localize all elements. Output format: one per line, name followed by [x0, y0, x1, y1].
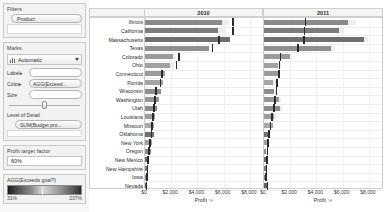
vertical-gridline: [290, 18, 291, 188]
label-field-box[interactable]: [29, 68, 82, 77]
row-label[interactable]: Oregon: [126, 147, 143, 155]
bar-mark[interactable]: [145, 63, 170, 68]
reference-line-marker: [161, 70, 162, 78]
axis-tick-label: $0: [260, 189, 266, 195]
gridline: [145, 181, 263, 182]
reference-line-marker: [305, 18, 306, 26]
bar-mark[interactable]: [264, 71, 278, 76]
vertical-gridline: [343, 18, 344, 188]
reference-line-marker: [265, 173, 266, 181]
sort-ascending-icon[interactable]: ↑≡: [207, 198, 213, 203]
reference-line-marker: [155, 87, 156, 95]
x-axis-2011[interactable]: $0$2,000$4,000$6,000$8,000: [263, 189, 383, 197]
axis-tick-label: $8,000: [241, 189, 256, 195]
bar-mark[interactable]: [264, 89, 274, 94]
size-field-box[interactable]: [29, 90, 82, 99]
parameter-input[interactable]: 60%: [7, 156, 82, 166]
color-legend-midpoint-marker: [42, 187, 43, 195]
gridline: [264, 87, 382, 88]
bar-mark[interactable]: [145, 132, 154, 137]
row-label[interactable]: Illinois: [129, 18, 143, 26]
bar-mark[interactable]: [145, 54, 173, 59]
row-label[interactable]: New Hampshire: [106, 165, 143, 173]
bar-mark[interactable]: [264, 149, 266, 154]
bar-mark[interactable]: [264, 28, 339, 33]
size-slider[interactable]: [9, 101, 80, 109]
color-card-icon[interactable]: Color▸: [7, 81, 29, 87]
bar-mark[interactable]: [145, 114, 155, 119]
row-label[interactable]: Massachusetts: [108, 36, 143, 44]
gridline: [145, 121, 263, 122]
column-header-2010[interactable]: 2010: [144, 8, 263, 17]
gridline: [145, 173, 263, 174]
axis-tick-label: $2,000: [163, 189, 178, 195]
size-slider-handle[interactable]: [42, 101, 47, 109]
bar-mark[interactable]: [264, 54, 290, 59]
bar-mark[interactable]: [145, 123, 154, 128]
bar-mark[interactable]: [145, 46, 209, 51]
plot-panel-2011: [263, 17, 383, 189]
row-label[interactable]: Louisiana: [121, 113, 143, 121]
color-legend-gradient[interactable]: [7, 185, 82, 195]
bar-mark[interactable]: [264, 37, 364, 42]
reference-line-marker: [151, 122, 152, 130]
level-of-detail-pill[interactable]: SUM(Budget pro...: [15, 120, 82, 129]
filters-dropzone[interactable]: [7, 24, 82, 34]
gridline: [145, 78, 263, 79]
bar-mark[interactable]: [145, 20, 222, 25]
bar-mark[interactable]: [264, 97, 279, 102]
column-header-2011[interactable]: 2011: [263, 8, 383, 17]
row-label[interactable]: Iowa: [132, 173, 143, 181]
bar-mark[interactable]: [145, 89, 161, 94]
gridline: [264, 130, 382, 131]
row-label[interactable]: Texas: [129, 44, 143, 52]
level-of-detail-dropzone[interactable]: [7, 130, 82, 137]
reference-line-marker: [232, 18, 233, 26]
row-label[interactable]: Missouri: [124, 122, 143, 130]
bar-chart-icon: [10, 57, 15, 63]
parameter-card-profit-target-factor: Profit target factor 60%: [3, 145, 86, 170]
mark-type-selector[interactable]: Automatic: [7, 54, 82, 65]
axis-tick-label: $0: [141, 189, 147, 195]
filter-pill-product[interactable]: Product: [11, 14, 82, 23]
row-label[interactable]: New York: [121, 139, 143, 147]
bar-mark[interactable]: [145, 37, 230, 42]
chevron-down-icon[interactable]: [75, 58, 79, 61]
bar-mark[interactable]: [145, 28, 218, 33]
bar-mark[interactable]: [264, 80, 273, 85]
axis-tick-label: $4,000: [189, 189, 204, 195]
reference-line-marker: [280, 53, 281, 61]
reference-line-marker: [147, 165, 148, 173]
marks-card-label-row: Label▸: [7, 68, 82, 77]
marks-label-text: Label: [7, 70, 20, 76]
row-label[interactable]: New Mexico: [115, 156, 143, 164]
parameter-title: Profit target factor: [7, 147, 82, 155]
axis-tick-label: $4,000: [308, 189, 323, 195]
bar-mark[interactable]: [145, 106, 157, 111]
label-card-icon[interactable]: Label▸: [7, 70, 29, 76]
sort-ascending-icon[interactable]: ↑≡: [326, 198, 332, 203]
reference-line-marker: [266, 156, 267, 164]
color-field-pill[interactable]: AGG(Exceed...: [29, 79, 82, 88]
x-axis-2010[interactable]: $0$2,000$4,000$6,000$8,000: [144, 189, 264, 197]
row-label[interactable]: Washington: [116, 96, 143, 104]
gridline: [264, 52, 382, 53]
row-label[interactable]: Florida: [127, 79, 143, 87]
bar-mark[interactable]: [145, 97, 159, 102]
gridline: [264, 61, 382, 62]
marks-card-size-row: Size: [7, 90, 82, 99]
vertical-gridline: [316, 18, 317, 188]
row-label[interactable]: California: [121, 27, 143, 35]
reference-line-marker: [154, 96, 155, 104]
row-label[interactable]: Connecticut: [116, 70, 143, 78]
vertical-gridline: [171, 18, 172, 188]
row-label[interactable]: Oklahoma: [119, 130, 143, 138]
row-label[interactable]: Utah: [132, 104, 143, 112]
row-label[interactable]: Colorado: [122, 53, 143, 61]
marks-title: Marks: [7, 44, 82, 52]
row-label[interactable]: Ohio: [132, 61, 143, 69]
bar-mark[interactable]: [264, 63, 278, 68]
row-label[interactable]: Wisconsin: [119, 87, 143, 95]
gridline: [264, 147, 382, 148]
gridline: [145, 156, 263, 157]
